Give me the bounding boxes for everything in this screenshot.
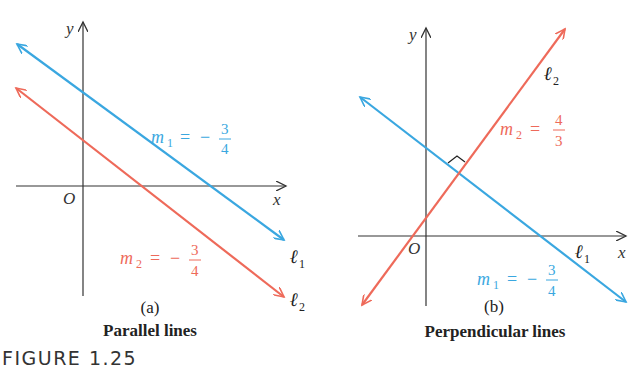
svg-text:ℓ: ℓ [290, 289, 298, 310]
svg-text:m: m [151, 127, 164, 147]
svg-text:2: 2 [136, 257, 142, 271]
svg-text:4: 4 [548, 283, 556, 299]
svg-text:3: 3 [555, 133, 563, 149]
x-axis-label-a: x [272, 190, 281, 209]
svg-text:4: 4 [555, 112, 563, 128]
line-name-l2-b: ℓ 2 [544, 63, 559, 88]
svg-text:=: = [180, 127, 190, 147]
x-axis-label-b: x [617, 243, 626, 262]
panel-a: y x O m 1 = − 3 4 m 2 = − 3 4 ℓ [16, 19, 305, 340]
slope-label-m2-b: m 2 = 4 3 [500, 112, 565, 149]
svg-text:2: 2 [299, 300, 305, 314]
slope-label-m2-a: m 2 = − 3 4 [120, 242, 201, 279]
svg-text:4: 4 [221, 141, 229, 157]
line-l2-b [362, 29, 565, 305]
svg-text:=: = [530, 119, 540, 139]
origin-label-a: O [63, 189, 75, 208]
svg-text:−: − [170, 248, 180, 268]
svg-text:=: = [507, 269, 517, 289]
line-name-l1-a: ℓ 1 [290, 246, 305, 271]
svg-text:3: 3 [548, 262, 556, 278]
svg-text:4: 4 [191, 263, 199, 279]
svg-text:1: 1 [493, 278, 499, 292]
svg-text:1: 1 [167, 136, 173, 150]
svg-text:=: = [150, 248, 160, 268]
line-name-l2-a: ℓ 2 [290, 289, 305, 314]
svg-text:ℓ: ℓ [290, 246, 298, 267]
line-name-l1-b: ℓ 1 [575, 241, 590, 266]
svg-text:m: m [477, 269, 490, 289]
svg-text:ℓ: ℓ [575, 241, 583, 262]
y-axis-label-a: y [64, 19, 74, 38]
svg-text:−: − [200, 127, 210, 147]
slope-label-m1-b: m 1 = − 3 4 [477, 262, 558, 299]
svg-text:1: 1 [299, 257, 305, 271]
svg-text:1: 1 [584, 252, 590, 266]
svg-text:m: m [120, 248, 133, 268]
svg-text:2: 2 [553, 74, 559, 88]
svg-text:3: 3 [191, 242, 199, 258]
right-angle-marker [448, 156, 465, 163]
svg-text:−: − [527, 269, 537, 289]
panel-b: y x O m 2 = 4 3 m 1 = − 3 4 ℓ [358, 25, 626, 341]
y-axis-label-b: y [407, 25, 417, 44]
caption-b: Perpendicular lines [425, 322, 566, 341]
figure-number: FIGURE 1.25 [2, 347, 137, 369]
origin-label-b: O [408, 239, 420, 258]
svg-text:m: m [500, 119, 513, 139]
svg-text:2: 2 [516, 128, 522, 142]
sublabel-b: (b) [484, 297, 504, 316]
svg-text:3: 3 [221, 121, 229, 137]
sublabel-a: (a) [141, 298, 160, 317]
figure-canvas: y x O m 1 = − 3 4 m 2 = − 3 4 ℓ [0, 0, 628, 374]
caption-a: Parallel lines [103, 321, 197, 340]
svg-text:ℓ: ℓ [544, 63, 552, 84]
